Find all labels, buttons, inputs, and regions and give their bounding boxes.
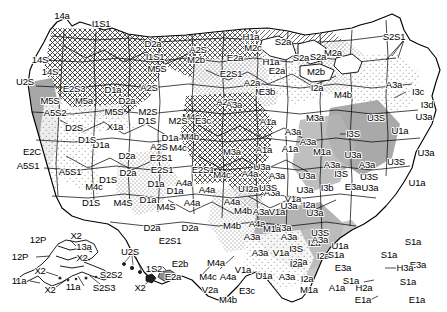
map-canvas bbox=[0, 0, 447, 312]
us-ecoregion-code-map: 14aI1S1D2aA2SM2cM2aH1aS2aS2S114SI1S1M2bE… bbox=[0, 0, 447, 312]
